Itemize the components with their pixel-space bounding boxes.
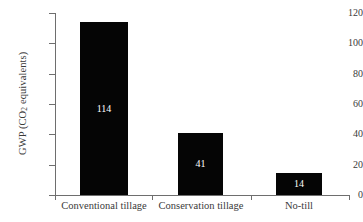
y-tick-label-40: 40 bbox=[319, 129, 363, 139]
y-axis-line bbox=[55, 13, 56, 195]
y-tick-mark-100 bbox=[49, 43, 55, 44]
y-tick-label-120: 120 bbox=[319, 8, 363, 18]
x-category-label-conservation-tillage: Conservation tillage bbox=[145, 200, 257, 212]
y-tick-label-20: 20 bbox=[319, 160, 363, 170]
bar-value-conservation-tillage: 41 bbox=[178, 159, 223, 169]
y-tick-mark-80 bbox=[49, 74, 55, 75]
y-tick-label-60: 60 bbox=[319, 99, 363, 109]
y-axis-title-main: GWP (CO bbox=[17, 111, 28, 155]
bar-value-no-till: 14 bbox=[276, 179, 322, 189]
bar-value-conventional-tillage: 114 bbox=[80, 104, 128, 114]
y-axis-title: GWP (CO2 equivalents) bbox=[17, 18, 30, 188]
y-tick-mark-40 bbox=[49, 134, 55, 135]
x-category-label-conventional-tillage: Conventional tillage bbox=[48, 200, 160, 212]
y-tick-mark-20 bbox=[49, 165, 55, 166]
y-tick-label-100: 100 bbox=[319, 38, 363, 48]
x-category-label-no-till: No-till bbox=[259, 200, 339, 212]
y-tick-mark-120 bbox=[49, 13, 55, 14]
x-axis-line bbox=[55, 195, 350, 196]
y-axis-title-tail: equivalents) bbox=[17, 52, 28, 107]
y-tick-mark-60 bbox=[49, 104, 55, 105]
y-tick-label-80: 80 bbox=[319, 69, 363, 79]
bar-chart: GWP (CO2 equivalents) 120 100 80 60 40 2… bbox=[0, 0, 363, 222]
y-axis-title-subscript: 2 bbox=[20, 107, 29, 111]
x-tick-mark-end bbox=[349, 195, 350, 200]
y-tick-label-0: 0 bbox=[319, 190, 363, 200]
